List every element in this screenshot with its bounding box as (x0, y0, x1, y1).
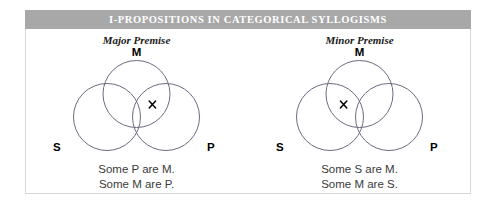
venn-label-m: M (248, 47, 471, 59)
venn-label-p: P (430, 142, 438, 154)
circle-s (297, 84, 364, 151)
caption-line-2: Some M are S. (248, 177, 471, 192)
circle-p (356, 84, 423, 151)
caption-major: Some P are M. Some M are P. (25, 162, 248, 192)
figure-title: I-PROPOSITIONS IN CATEGORICAL SYLLOGISMS (109, 14, 387, 25)
circle-s (74, 84, 141, 151)
panel-major-premise: Major Premise M S P Some P are M. Some M… (25, 29, 248, 194)
panel-heading-minor: Minor Premise (248, 34, 471, 46)
existential-x-mark-minor (340, 101, 346, 108)
venn-label-m: M (25, 47, 248, 59)
circle-m (326, 61, 393, 128)
existential-x-mark-major (149, 101, 155, 108)
circle-p (133, 84, 200, 151)
caption-line-2: Some M are P. (25, 177, 248, 192)
circle-m (103, 61, 170, 128)
venn-label-s: S (276, 142, 284, 154)
venn-label-p: P (207, 142, 215, 154)
panel-heading-major: Major Premise (25, 34, 248, 46)
venn-label-s: S (53, 142, 61, 154)
caption-minor: Some S are M. Some M are S. (248, 162, 471, 192)
caption-line-1: Some P are M. (25, 162, 248, 177)
panel-minor-premise: Minor Premise M S P Some S are M. Some M… (248, 29, 471, 194)
venn-diagram-major: M S P (25, 47, 248, 159)
caption-line-1: Some S are M. (248, 162, 471, 177)
figure-root: I-PROPOSITIONS IN CATEGORICAL SYLLOGISMS… (0, 0, 501, 217)
figure-title-bar: I-PROPOSITIONS IN CATEGORICAL SYLLOGISMS (25, 10, 471, 29)
venn-diagram-minor: M S P (248, 47, 471, 159)
